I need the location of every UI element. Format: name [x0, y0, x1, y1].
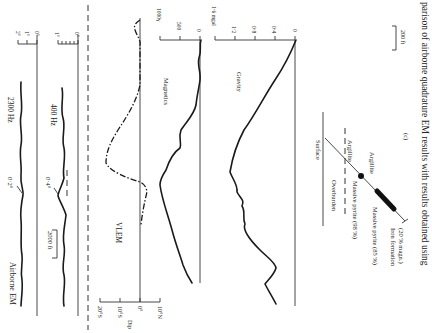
- svg-text:10°S: 10°S: [117, 306, 123, 318]
- vlem-panel: VLEM 20°S 10°S 0° 10°N Dip: [97, 18, 163, 329]
- label-2300hz: 2300 Hz: [6, 97, 15, 123]
- svg-text:1°: 1°: [24, 31, 30, 36]
- figure-caption-rotated: parison of airborne quadrature EM result…: [420, 2, 430, 266]
- scale-bar-2000ft: 2000 ft: [47, 230, 57, 258]
- vlem-title: VLEM: [114, 222, 123, 244]
- svg-text:200 ft: 200 ft: [400, 30, 406, 44]
- trace-400hz: [58, 88, 66, 306]
- svg-text:0°: 0°: [34, 31, 40, 36]
- scale-bar-200ft: 200 ft: [392, 26, 406, 50]
- pyrite-98-body: [358, 173, 364, 179]
- magnetics-title: Magnetics: [163, 78, 170, 106]
- gravity-title: Gravity: [236, 72, 243, 93]
- scale-400hz: 1° 0°: [54, 32, 80, 44]
- label-400hz: 400 Hz: [49, 104, 58, 127]
- airborne-em-panel: Airborne EM 2300 Hz 0·2° 2° 1° 0° 400 Hz…: [6, 31, 80, 316]
- svg-text:0°: 0°: [74, 32, 80, 37]
- scale-2300hz: 2° 1° 0°: [15, 31, 40, 44]
- svg-text:2°: 2°: [15, 31, 21, 36]
- svg-text:Overburden: Overburden: [331, 180, 338, 212]
- svg-text:10°N: 10°N: [157, 306, 163, 319]
- magnetics-panel: Magnetics 1000γ 500 0: [156, 8, 202, 283]
- magnetics-profile: [160, 40, 201, 283]
- vlem-profile: [106, 20, 147, 225]
- anomaly-label-2300hz: 0·2°: [7, 177, 14, 189]
- anomaly-label-400hz: 0·4°: [45, 177, 52, 189]
- geologic-section: Surface Argillite Argillite Overburden M…: [315, 26, 410, 267]
- svg-text:0·4: 0·4: [271, 26, 277, 34]
- svg-text:Iron formation: Iron formation: [390, 228, 397, 267]
- svg-text:Massive pyrite (85 %): Massive pyrite (85 %): [371, 207, 379, 265]
- vlem-axis: 20°S 10°S 0° 10°N Dip: [97, 298, 163, 329]
- svg-text:Surface: Surface: [315, 140, 322, 160]
- svg-text:Massive pyrite (98 %): Massive pyrite (98 %): [351, 181, 359, 239]
- airborne-em-title: Airborne EM: [8, 262, 17, 305]
- svg-text:20°S: 20°S: [97, 306, 103, 318]
- svg-text:Argillite: Argillite: [369, 152, 376, 174]
- trace-2300hz: [20, 82, 23, 306]
- svg-text:Dip: Dip: [127, 320, 133, 329]
- svg-text:1·2: 1·2: [231, 26, 237, 34]
- svg-text:0·8: 0·8: [251, 26, 257, 34]
- panel-label: (c): [402, 133, 410, 140]
- svg-text:0: 0: [196, 29, 202, 32]
- gravity-axis: 1·6 mgal 1·2 0·8 0·4 0: [211, 6, 298, 40]
- svg-text:500: 500: [176, 22, 182, 31]
- magnetics-axis: 1000γ 500 0: [156, 8, 202, 40]
- svg-text:0°: 0°: [137, 306, 143, 312]
- svg-text:Argillite: Argillite: [347, 140, 354, 162]
- leader-400hz: [54, 188, 58, 194]
- hole-end-tick: [402, 219, 408, 223]
- figure-canvas: Airborne EM 2300 Hz 0·2° 2° 1° 0° 400 Hz…: [0, 0, 432, 333]
- svg-text:(20 % magn.): (20 % magn.): [397, 228, 405, 264]
- svg-text:1000γ: 1000γ: [156, 8, 162, 22]
- svg-text:1°: 1°: [54, 32, 60, 37]
- svg-text:0: 0: [292, 29, 298, 32]
- svg-text:2000 ft: 2000 ft: [47, 231, 54, 250]
- gravity-panel: Gravity 1·6 mgal 1·2 0·8 0·4 0: [211, 6, 298, 306]
- svg-text:1·6 mgal: 1·6 mgal: [211, 6, 217, 26]
